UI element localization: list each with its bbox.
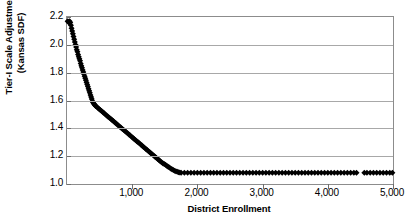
y-axis-tick-label: 2.0	[30, 39, 63, 49]
y-axis-tick-mark	[67, 184, 71, 185]
gridline-horizontal	[67, 73, 393, 74]
chart-figure: Tier-I Scale Adjustment (Kansas SDF) 1.0…	[0, 0, 417, 224]
data-series	[65, 18, 396, 176]
y-axis-tick-label: 2.2	[30, 11, 63, 21]
x-axis-title: District Enrollment	[66, 203, 392, 214]
y-axis-tick-label: 1.2	[30, 150, 63, 160]
y-axis-tick-mark	[67, 128, 71, 129]
x-axis-tick-label: 4,000	[297, 187, 357, 199]
y-axis-title-line-1: Tier-I Scale Adjustment	[3, 0, 15, 123]
plot-area	[66, 16, 394, 185]
gridline-horizontal	[67, 128, 393, 129]
y-axis-tick-mark	[67, 73, 71, 74]
x-axis-tick-label: 3,000	[232, 187, 292, 199]
y-axis-tick-mark	[67, 45, 71, 46]
y-axis-tick-label: 1.4	[30, 122, 63, 132]
y-axis-tick-label: 1.6	[30, 95, 63, 105]
x-axis-tick-label: 2,000	[166, 187, 226, 199]
y-axis-title-line-2: (Kansas SDF)	[15, 0, 27, 123]
gridline-horizontal	[67, 101, 393, 102]
y-axis-tick-label: 1.8	[30, 67, 63, 77]
gridline-horizontal	[67, 45, 393, 46]
x-axis-tick-labels: 1,0002,0003,0004,0005,000	[0, 187, 417, 201]
gridline-horizontal	[67, 156, 393, 157]
x-axis-tick-label: 5,000	[362, 187, 417, 199]
y-axis-tick-mark	[67, 17, 71, 18]
y-axis-tick-mark	[67, 101, 71, 102]
y-axis-tick-mark	[67, 156, 71, 157]
x-axis-tick-label: 1,000	[101, 187, 161, 199]
